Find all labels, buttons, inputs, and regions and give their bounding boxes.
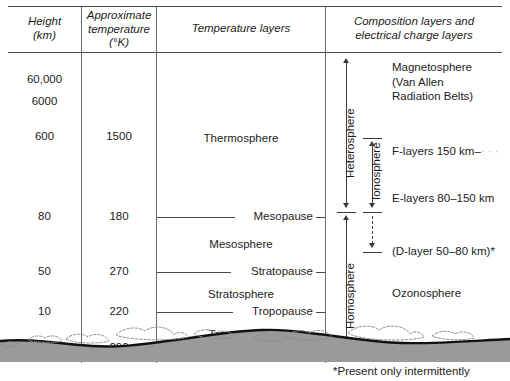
- column-header-temperature-layers: Temperature layers: [157, 22, 325, 36]
- mesopause-rule-right: [316, 217, 325, 218]
- column-header-composition-layers: Composition layers and electrical charge…: [326, 15, 502, 42]
- column-divider-2: [156, 7, 157, 363]
- atmosphere-layers-figure: Height (km) Approximate temperature (°K)…: [0, 0, 510, 381]
- temperature-value-270: 270: [82, 265, 156, 277]
- height-value-600: 600: [8, 130, 81, 142]
- footnote-text: *Present only intermittently: [333, 365, 470, 377]
- header-temp-line1: Approximate: [82, 9, 156, 23]
- d-layer-bottom-tick: [363, 252, 382, 253]
- f-layers-trailing-dots: ···: [481, 145, 502, 157]
- cloud-8: [432, 331, 474, 340]
- layer-label-mesosphere: Mesosphere: [157, 238, 325, 250]
- magnetosphere-line1: Magnetosphere: [392, 60, 473, 75]
- header-temp-line3: (°K): [82, 36, 156, 50]
- layer-label-thermosphere: Thermosphere: [157, 132, 325, 144]
- tropopause-rule-right: [316, 312, 325, 313]
- column-header-height: Height (km): [8, 15, 81, 42]
- header-tlayers-line1: Temperature layers: [157, 22, 325, 36]
- height-value-10: 10: [8, 305, 81, 317]
- cloud-7: [348, 326, 424, 340]
- layer-label-mesopause: Mesopause: [180, 210, 313, 222]
- temperature-value-220: 220: [82, 305, 156, 317]
- header-height-line1: Height: [8, 15, 81, 29]
- heterosphere-arrow-bottom: [343, 203, 349, 208]
- temperature-value-180: 180: [82, 210, 156, 222]
- height-value-6000: 6000: [8, 95, 81, 107]
- height-value-80: 80: [8, 210, 81, 222]
- header-height-line2: (km): [8, 29, 81, 43]
- magnetosphere-line3: Radiation Belts): [392, 89, 473, 104]
- ionosphere-bottom-tick: [363, 212, 382, 213]
- vertical-label-ionosphere: Ionosphere: [370, 142, 382, 200]
- temperature-value-1500: 1500: [82, 130, 156, 142]
- composition-label-e-layers: E-layers 80–150 km: [392, 191, 494, 206]
- header-complayers-line1: Composition layers and: [326, 15, 502, 29]
- header-temp-line2: temperature: [82, 23, 156, 37]
- vertical-label-heterosphere: Heterosphere: [344, 108, 356, 178]
- ionosphere-top-tick: [363, 138, 382, 139]
- layer-label-tropopause: Tropopause: [178, 305, 313, 317]
- layer-label-stratosphere: Stratosphere: [157, 288, 325, 300]
- cloud-2: [66, 334, 109, 343]
- height-value-50: 50: [8, 265, 81, 277]
- composition-label-d-layer: (D-layer 50–80 km)*: [392, 244, 495, 259]
- height-value-60000: 60,000: [8, 73, 81, 85]
- composition-label-magnetosphere: Magnetosphere (Van Allen Radiation Belts…: [392, 60, 473, 104]
- d-layer-dashed-axis: [372, 216, 373, 244]
- column-header-temperature: Approximate temperature (°K): [82, 9, 156, 50]
- heterosphere-homosphere-boundary-tick: [337, 212, 356, 213]
- header-bottom-rule: [8, 52, 502, 53]
- magnetosphere-line2: (Van Allen: [392, 75, 473, 90]
- column-divider-3: [325, 7, 326, 363]
- cloud-3: [116, 327, 188, 340]
- layer-label-stratopause: Stratopause: [176, 265, 313, 277]
- stratopause-rule-right: [316, 272, 325, 273]
- composition-label-ozonosphere: Ozonosphere: [392, 286, 461, 301]
- ionosphere-arrow-bottom: [369, 203, 375, 208]
- composition-label-f-layers: F-layers 150 km–···: [392, 144, 501, 159]
- table-top-rule: [8, 6, 502, 7]
- f-layers-text: F-layers 150 km–: [392, 145, 481, 157]
- d-layer-arrow-bottom: [369, 243, 375, 248]
- header-complayers-line2: electrical charge layers: [326, 29, 502, 43]
